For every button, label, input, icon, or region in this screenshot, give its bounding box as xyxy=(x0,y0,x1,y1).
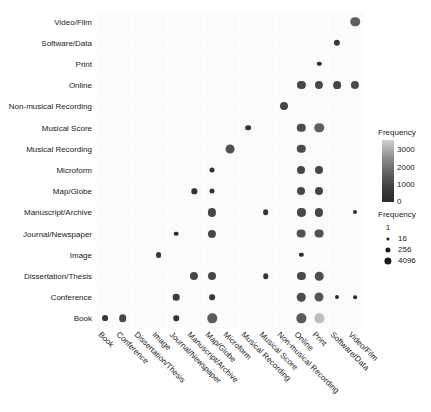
y-axis-tick-label: Dissertation/Thesis xyxy=(24,272,92,281)
grid-line-vertical xyxy=(114,11,115,329)
data-point xyxy=(209,294,215,300)
size-legend-row: 1 xyxy=(378,222,431,233)
data-point xyxy=(297,229,306,238)
data-point xyxy=(263,210,269,216)
y-axis-tick-label: Musical Score xyxy=(42,123,92,132)
grid-line-horizontal xyxy=(96,287,364,288)
scatter-matrix-figure: BookConferenceDissertation/ThesisImageJo… xyxy=(0,0,431,412)
color-legend-tick: 3000 xyxy=(397,146,415,154)
data-point xyxy=(315,187,323,195)
data-point xyxy=(119,315,127,323)
data-point xyxy=(353,295,357,299)
size-legend-label: 256 xyxy=(398,246,411,254)
data-point xyxy=(297,314,306,323)
data-point xyxy=(210,189,215,194)
data-point xyxy=(315,314,324,323)
y-axis-tick-label: Image xyxy=(70,250,92,259)
data-point xyxy=(335,295,339,299)
size-legend-row: 16 xyxy=(378,233,431,244)
grid-line-horizontal xyxy=(96,244,364,245)
data-point xyxy=(315,229,324,238)
y-axis-tick-label: Journal/Newspaper xyxy=(23,229,92,238)
grid-line-vertical xyxy=(275,11,276,329)
data-point xyxy=(297,208,305,216)
legend-area: Frequency 3000200010000 Frequency 116256… xyxy=(378,128,431,266)
grid-line-vertical xyxy=(221,11,222,329)
size-legend-dot xyxy=(384,257,391,264)
grid-line-vertical xyxy=(257,11,258,329)
color-legend-tick: 2000 xyxy=(397,164,415,172)
y-axis-tick-label: Online xyxy=(69,81,92,90)
data-point xyxy=(315,293,324,302)
color-bar-wrap: 3000200010000 xyxy=(378,140,431,202)
data-point xyxy=(297,145,305,153)
size-legend-dot xyxy=(385,247,390,252)
grid-line-horizontal xyxy=(96,202,364,203)
data-point xyxy=(351,81,359,89)
size-legend-row: 4096 xyxy=(378,255,431,266)
data-point xyxy=(226,144,235,153)
data-point xyxy=(208,230,216,238)
grid-line-horizontal xyxy=(96,223,364,224)
grid-line-vertical xyxy=(239,11,240,329)
data-point xyxy=(207,314,216,323)
grid-line-vertical xyxy=(328,11,329,329)
y-axis-tick-label: Book xyxy=(74,314,92,323)
grid-line-horizontal xyxy=(96,138,364,139)
data-point xyxy=(317,62,321,66)
data-point xyxy=(315,166,323,174)
data-point xyxy=(280,102,288,110)
data-point xyxy=(297,293,305,301)
data-point xyxy=(297,272,305,280)
y-axis-tick-label: Video/Film xyxy=(54,17,92,26)
data-point xyxy=(353,210,357,214)
size-legend-title: Frequency xyxy=(378,210,431,220)
grid-line-vertical xyxy=(293,11,294,329)
grid-lines xyxy=(96,11,364,329)
y-axis-tick-label: Map/Globe xyxy=(53,187,92,196)
y-axis-tick-label: Musical Recording xyxy=(26,144,92,153)
grid-line-horizontal xyxy=(96,159,364,160)
grid-line-horizontal xyxy=(96,32,364,33)
size-legend-label: 1 xyxy=(386,224,390,232)
plot-panel xyxy=(96,11,364,329)
data-point xyxy=(156,252,162,258)
grid-line-horizontal xyxy=(96,265,364,266)
grid-line-horizontal xyxy=(96,96,364,97)
grid-line-horizontal xyxy=(96,181,364,182)
color-legend-title: Frequency xyxy=(378,128,431,138)
grid-line-vertical xyxy=(364,11,365,329)
data-point xyxy=(297,123,305,131)
y-axis-tick-label: Conference xyxy=(51,293,92,302)
grid-line-horizontal xyxy=(96,11,364,12)
y-axis-labels: BookConferenceDissertation/ThesisImageJo… xyxy=(0,11,92,329)
x-axis-tick-label: Book xyxy=(97,330,116,349)
grid-line-horizontal xyxy=(96,53,364,54)
grid-line-vertical xyxy=(150,11,151,329)
data-point xyxy=(245,125,251,131)
grid-line-horizontal xyxy=(96,75,364,76)
data-point xyxy=(174,316,180,322)
color-legend-tick: 1000 xyxy=(397,181,415,189)
data-point xyxy=(102,315,108,321)
data-point xyxy=(350,17,359,26)
grid-line-horizontal xyxy=(96,308,364,309)
grid-line-vertical xyxy=(167,11,168,329)
x-axis-labels: BookConferenceDissertation/ThesisImageJo… xyxy=(96,330,386,410)
data-point xyxy=(208,272,216,280)
color-bar-gradient xyxy=(382,140,394,202)
color-legend-tick: 0 xyxy=(397,198,401,206)
grid-line-vertical xyxy=(203,11,204,329)
y-axis-tick-label: Non-musical Recording xyxy=(9,102,92,111)
y-axis-tick-label: Manuscript/Archive xyxy=(24,208,92,217)
data-point xyxy=(315,123,324,132)
data-point xyxy=(334,40,340,46)
data-point xyxy=(210,167,215,172)
data-point xyxy=(297,166,305,174)
size-legend-label: 16 xyxy=(398,235,407,243)
size-legend-label: 4096 xyxy=(398,257,416,265)
y-axis-tick-label: Software/Data xyxy=(41,38,92,47)
data-point xyxy=(315,272,324,281)
y-axis-tick-label: Microform xyxy=(56,166,92,175)
grid-line-vertical xyxy=(346,11,347,329)
